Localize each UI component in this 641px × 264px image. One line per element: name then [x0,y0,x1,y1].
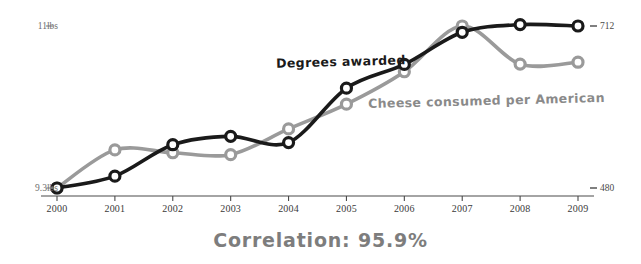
x-axis-tick-2005: 2005 [332,203,360,214]
x-axis-tick-2001: 2001 [101,203,129,214]
y-axis-left-top-label: 11lbs [10,21,58,31]
data-point-marker [284,138,294,148]
x-axis-tick-2006: 2006 [390,203,418,214]
data-point-marker [573,21,583,31]
plot-area [0,0,641,264]
y-axis-left-bottom-label: 9.3lbs [2,183,58,193]
x-axis-tick-2007: 2007 [448,203,476,214]
data-point-marker [110,145,120,155]
x-axis-tick-2000: 2000 [43,203,71,214]
data-point-marker [515,59,525,69]
data-point-marker [168,140,178,150]
data-point-marker [573,57,583,67]
x-axis-tick-2002: 2002 [159,203,187,214]
x-axis-tick-2008: 2008 [506,203,534,214]
data-point-marker [341,83,351,93]
y-axis-right-top-label: 712 [600,21,614,31]
data-point-marker [110,171,120,181]
y-axis-right-bottom-label: 480 [600,183,614,193]
x-axis-tick-2003: 2003 [217,203,245,214]
correlation-caption: Correlation: 95.9% [0,229,641,251]
data-point-marker [226,150,236,160]
correlation-chart: 11lbs 9.3lbs 712 480 2000200120022003200… [0,0,641,264]
data-point-marker [284,124,294,134]
x-axis-tick-2009: 2009 [564,203,592,214]
data-point-marker [226,131,236,141]
x-axis-tick-2004: 2004 [275,203,303,214]
data-point-marker [341,99,351,109]
x-axis [41,196,594,201]
data-point-marker [515,20,525,30]
data-point-marker [457,27,467,37]
